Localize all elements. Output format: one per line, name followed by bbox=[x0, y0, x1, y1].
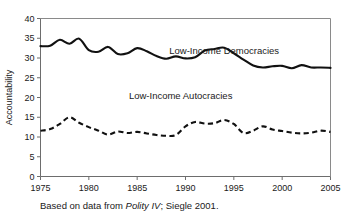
x-tick-label: 1995 bbox=[224, 183, 244, 193]
caption-prefix: Based on data from bbox=[40, 200, 126, 211]
y-axis-ticks: 0510152025303540 bbox=[24, 14, 40, 182]
series-line-2 bbox=[41, 117, 331, 136]
y-tick-label: 15 bbox=[24, 112, 34, 122]
x-tick-label: 2000 bbox=[272, 183, 292, 193]
x-tick-label: 2005 bbox=[320, 183, 340, 193]
y-tick-label: 30 bbox=[24, 53, 34, 63]
y-tick-label: 40 bbox=[24, 14, 34, 24]
y-tick-label: 5 bbox=[29, 152, 34, 162]
x-tick-label: 1990 bbox=[175, 183, 195, 193]
chart-figure: 0510152025303540 19751980198519901995200… bbox=[0, 0, 358, 220]
y-tick-label: 20 bbox=[24, 93, 34, 103]
x-axis-ticks: 1975198019851990199520002005 bbox=[30, 177, 340, 193]
figure-caption: Based on data from Polity IV; Siegle 200… bbox=[40, 200, 219, 212]
y-tick-label: 35 bbox=[24, 33, 34, 43]
caption-suffix: ; Siegle 2001. bbox=[160, 200, 218, 211]
x-tick-label: 1980 bbox=[79, 183, 99, 193]
accountability-line-chart: 0510152025303540 19751980198519901995200… bbox=[0, 0, 358, 220]
x-tick-label: 1975 bbox=[30, 183, 50, 193]
series-annotation-1: Low-Income Democracies bbox=[169, 45, 279, 56]
y-tick-label: 0 bbox=[29, 172, 34, 182]
caption-source: Polity IV bbox=[126, 200, 161, 211]
y-axis-title: Accountability bbox=[4, 69, 14, 125]
y-tick-label: 25 bbox=[24, 73, 34, 83]
series-annotation-2: Low-Income Autocracies bbox=[129, 90, 233, 101]
y-tick-label: 10 bbox=[24, 132, 34, 142]
x-tick-label: 1985 bbox=[127, 183, 147, 193]
